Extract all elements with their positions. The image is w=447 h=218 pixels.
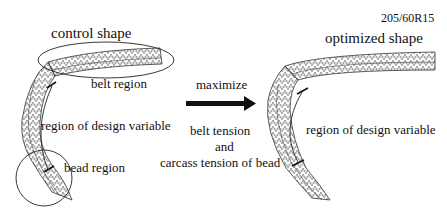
design-variable-label-left: region of design variable (41, 119, 171, 133)
objective-and: and (215, 140, 234, 154)
optimized-shape-title: optimized shape (325, 30, 423, 46)
tire-shape-optimization-diagram: 205/60R15 control shape belt region regi… (0, 0, 447, 218)
design-variable-label-right: region of design variable (306, 123, 436, 137)
belt-region-label: belt region (91, 77, 147, 91)
objective-belt-tension: belt tension (190, 124, 250, 138)
tire-size-label: 205/60R15 (381, 11, 434, 25)
maximize-label: maximize (196, 78, 247, 92)
control-shape-title: control shape (51, 25, 131, 41)
bead-region-label: bead region (64, 161, 125, 175)
objective-carcass-tension: carcass tension of bead (160, 156, 280, 170)
maximize-arrow-icon (186, 96, 256, 111)
